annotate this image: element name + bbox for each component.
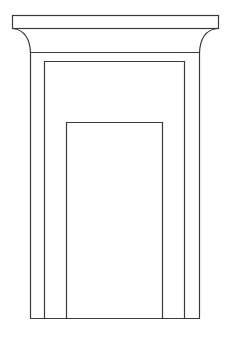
doorway-drawing [0, 0, 230, 342]
cornice-curve-right [200, 29, 218, 54]
inner-frame [45, 62, 185, 319]
cornice-curve-left [13, 29, 31, 54]
cornice-slab [13, 16, 219, 29]
door-opening [67, 123, 163, 319]
